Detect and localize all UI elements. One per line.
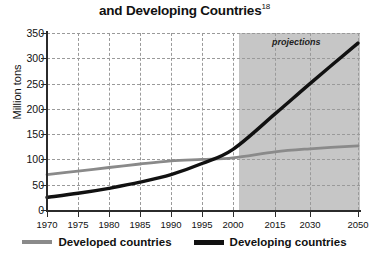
y-axis-tick-label: 50	[4, 179, 44, 191]
y-axis-tick-label: 100	[4, 153, 44, 165]
x-axis-tick-label: 1985	[129, 219, 150, 230]
y-axis-tick	[41, 185, 47, 186]
legend-label-developing: Developing countries	[230, 236, 347, 248]
y-axis-tick	[41, 134, 47, 135]
y-axis-tick-label: 0	[4, 204, 44, 216]
x-axis-tick-label: 2000	[222, 219, 243, 230]
y-axis-tick	[41, 109, 47, 110]
x-axis-tick	[47, 212, 48, 217]
y-axis-tick	[41, 33, 47, 34]
x-axis-tick-label: 2050	[347, 219, 368, 230]
plot-area: projections	[47, 33, 360, 210]
x-axis-tick	[78, 212, 79, 217]
y-axis-tick	[41, 159, 47, 160]
x-axis-tick	[358, 212, 359, 217]
y-axis-tick-label: 350	[4, 27, 44, 39]
y-axis-tick-label: 200	[4, 103, 44, 115]
series-line	[47, 43, 358, 197]
y-axis-labels: 050100150200250300350	[0, 33, 44, 210]
chart-title-footnote: 18	[261, 2, 270, 11]
x-axis-tick-label: 1995	[191, 219, 212, 230]
x-axis-tick	[233, 212, 234, 217]
legend-label-developed: Developed countries	[58, 236, 171, 248]
legend-swatch-developing	[194, 240, 224, 245]
x-axis-tick	[171, 212, 172, 217]
y-axis-tick-label: 300	[4, 52, 44, 64]
projections-annotation: projections	[272, 37, 321, 47]
x-axis-tick	[275, 212, 276, 217]
chart-legend: Developed countries Developing countries	[0, 236, 369, 248]
y-axis-tick	[41, 84, 47, 85]
y-axis-tick	[41, 58, 47, 59]
x-axis-tick-label: 2015	[264, 219, 285, 230]
x-axis-tick-label: 1990	[160, 219, 181, 230]
x-axis-tick-label: 1970	[36, 219, 57, 230]
y-axis-tick	[41, 210, 47, 211]
chart-title-text: and Developing Countries	[99, 3, 261, 18]
y-axis-tick-label: 150	[4, 128, 44, 140]
x-axis-tick	[109, 212, 110, 217]
x-axis-tick	[202, 212, 203, 217]
legend-swatch-developed	[22, 240, 52, 244]
x-axis-line	[46, 210, 361, 212]
legend-item-developing: Developing countries	[194, 236, 347, 248]
series-line	[47, 146, 358, 175]
chart-container: and Developing Countries18 Million tons …	[0, 0, 369, 260]
x-axis-tick	[310, 212, 311, 217]
series-lines	[47, 33, 360, 210]
x-axis-tick-label: 2030	[299, 219, 320, 230]
legend-item-developed: Developed countries	[22, 236, 171, 248]
chart-title: and Developing Countries18	[0, 2, 369, 18]
x-axis-tick-label: 1975	[67, 219, 88, 230]
x-axis-tick-label: 1980	[98, 219, 119, 230]
x-axis-tick	[140, 212, 141, 217]
y-axis-tick-label: 250	[4, 78, 44, 90]
